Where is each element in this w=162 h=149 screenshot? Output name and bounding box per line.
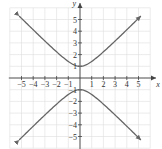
hyperbola-plot: −5−4−3−2−112345−5−4−3−2−112345xy: [0, 0, 162, 149]
y-tick-label: −4: [68, 121, 77, 130]
y-tick-label: 4: [73, 27, 77, 36]
x-tick-label: −5: [17, 80, 26, 89]
x-tick-label: 2: [101, 80, 105, 89]
x-axis-label: x: [155, 80, 160, 89]
y-tick-label: 1: [73, 62, 77, 71]
x-tick-label: 4: [125, 80, 129, 89]
y-tick-label: −5: [68, 133, 77, 142]
x-tick-label: −2: [52, 80, 61, 89]
x-tick-label: −3: [41, 80, 50, 89]
x-tick-label: −4: [29, 80, 38, 89]
x-tick-label: 1: [90, 80, 94, 89]
y-axis-label: y: [71, 0, 76, 8]
y-tick-label: 3: [73, 39, 77, 48]
y-tick-label: −3: [68, 109, 77, 118]
y-tick-label: 5: [73, 16, 77, 25]
y-tick-label: −1: [68, 86, 77, 95]
y-tick-label: 2: [73, 51, 77, 60]
x-tick-label: 5: [137, 80, 141, 89]
y-tick-label: −2: [68, 97, 77, 106]
axes: [9, 3, 156, 149]
x-tick-label: 3: [113, 80, 117, 89]
